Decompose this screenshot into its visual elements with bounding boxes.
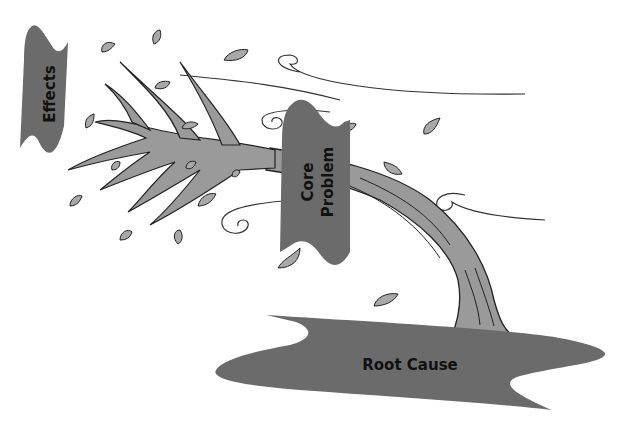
- tree-branches: [68, 62, 275, 225]
- effects-label: Effects: [41, 65, 59, 123]
- root-cause-label: Root Cause: [362, 356, 457, 374]
- effects-banner: Effects: [20, 25, 68, 153]
- core-problem-banner: Core Problem: [280, 100, 350, 265]
- root-cause-banner: Root Cause: [215, 315, 605, 410]
- core-problem-label-line1: Core: [299, 163, 317, 202]
- problem-tree-diagram: Effects Core Problem Root Cause: [0, 0, 620, 423]
- core-problem-label-line2: Problem: [319, 147, 337, 217]
